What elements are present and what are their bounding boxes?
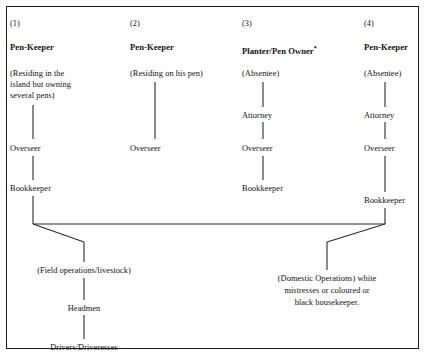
column-3-bookkeeper: Bookkeeper	[242, 183, 283, 195]
column-2-note-line-1: (Residing on his pen)	[130, 68, 203, 80]
column-1-bookkeeper: Bookkeeper	[10, 183, 51, 195]
column-1-number: (1)	[10, 18, 20, 30]
column-4-overseer: Overseer	[364, 143, 395, 155]
column-2-role: Pen-Keeper	[130, 42, 174, 54]
column-2-number: (2)	[130, 18, 140, 30]
column-3-overseer: Overseer	[242, 143, 273, 155]
left-branch-heading: (Field operations/livestock)	[37, 265, 131, 277]
column-3-note-line-1: (Absentee)	[242, 68, 279, 80]
column-3-role-footnote-marker: *	[314, 44, 317, 51]
column-3-attorney: Attorney	[242, 110, 272, 122]
column-3-number: (3)	[242, 18, 252, 30]
column-4-role: Pen-Keeper	[364, 42, 408, 54]
column-1-role: Pen-Keeper	[10, 42, 54, 54]
column-3-role-wrap: Planter/Pen Owner*	[242, 42, 317, 57]
right-branch-line-2: mistresses or coloured or	[284, 285, 369, 297]
right-branch-line-1: (Domestic Operations) white	[278, 273, 377, 285]
column-4-number: (4)	[364, 18, 374, 30]
column-4-bookkeeper: Bookkeeper	[364, 195, 405, 207]
right-branch-line-3: black housekeeper.	[295, 297, 360, 309]
diagram-canvas: (1) Pen-Keeper (Residing in the island b…	[0, 0, 428, 361]
left-branch-drivers: Drivers/Driveresses	[50, 342, 117, 354]
column-4-note-line-1: (Absentee)	[364, 68, 401, 80]
column-1-overseer: Overseer	[10, 143, 41, 155]
left-branch-headmen: Headmen	[68, 303, 100, 315]
column-2-overseer: Overseer	[130, 143, 161, 155]
column-4-attorney: Attorney	[364, 110, 394, 122]
column-1-note-line-3: several pens)	[10, 90, 55, 102]
column-1-note-line-1: (Residing in the	[10, 68, 64, 80]
column-1-note-line-2: island but owning	[10, 79, 71, 91]
column-3-role: Planter/Pen Owner	[242, 46, 314, 56]
